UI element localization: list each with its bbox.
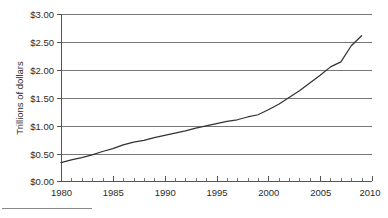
gridlines [61, 15, 372, 155]
x-tick-label-1980: 1980 [51, 187, 72, 198]
y-tick-label-1-00: $1.00 [30, 121, 54, 132]
x-tick-label-2010: 2010 [359, 187, 380, 198]
y-axis-title: Trillions of dollars [14, 61, 25, 135]
y-tick-label-2-50: $2.50 [30, 37, 54, 48]
y-axis-tick-labels: $3.00 $2.50 $2.00 $1.50 $1.00 $0.50 $0.0… [30, 9, 54, 187]
chart-figure: $3.00 $2.50 $2.00 $1.50 $1.00 $0.50 $0.0… [0, 0, 388, 218]
y-tick-label-1-50: $1.50 [30, 93, 54, 104]
x-tick-label-1990: 1990 [155, 187, 176, 198]
x-tick-label-1985: 1985 [103, 187, 124, 198]
y-tick-label-2-00: $2.00 [30, 65, 54, 76]
x-tick-label-1995: 1995 [206, 187, 227, 198]
y-tick-label-0-50: $0.50 [30, 149, 54, 160]
x-axis-tick-labels: 1980 1985 1990 1995 2000 2005 2010 [51, 187, 381, 198]
y-axis-ticks [57, 15, 61, 182]
y-tick-label-3-00: $3.00 [30, 9, 54, 20]
y-tick-label-0-00: $0.00 [30, 176, 54, 187]
x-tick-label-2000: 2000 [258, 187, 279, 198]
x-axis-major-ticks [62, 176, 373, 181]
x-tick-label-2005: 2005 [310, 187, 331, 198]
line-chart-canvas: $3.00 $2.50 $2.00 $1.50 $1.00 $0.50 $0.0… [0, 0, 388, 218]
data-series-line [61, 36, 362, 163]
